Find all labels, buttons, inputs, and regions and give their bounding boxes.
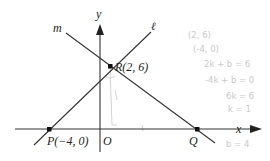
y-axis-arrow-icon (96, 24, 104, 35)
point-q (195, 127, 200, 132)
x-axis-label: x (235, 122, 242, 136)
x-axis (15, 125, 262, 133)
note-line: (-4, 0) (193, 44, 219, 54)
note-line: b = 4 (226, 139, 249, 149)
point-r-label: R(2, 6) (114, 60, 148, 74)
coordinate-diagram: y x O m ℓ R(2, 6) P(−4, 0) Q (2, 6) (-4,… (0, 0, 270, 161)
note-line: -4k + b = 0 (205, 75, 254, 85)
note-line: (2, 6) (188, 30, 211, 40)
y-axis (96, 24, 104, 152)
point-r (108, 64, 113, 69)
note-line: 2k + b = 6 (204, 59, 250, 69)
note-line: k = 1 (228, 104, 251, 114)
line-l-label: ℓ (151, 20, 156, 32)
y-axis-label: y (95, 7, 102, 21)
point-q-label: Q (189, 134, 198, 148)
point-p (47, 127, 52, 132)
x-axis-arrow-icon (250, 125, 262, 133)
pencil-marks (105, 68, 143, 131)
point-p-label: P(−4, 0) (46, 134, 88, 148)
line-l (34, 32, 151, 145)
note-line: 6k = 6 (226, 91, 254, 101)
origin-label: O (103, 134, 112, 148)
line-m-label: m (53, 21, 62, 35)
